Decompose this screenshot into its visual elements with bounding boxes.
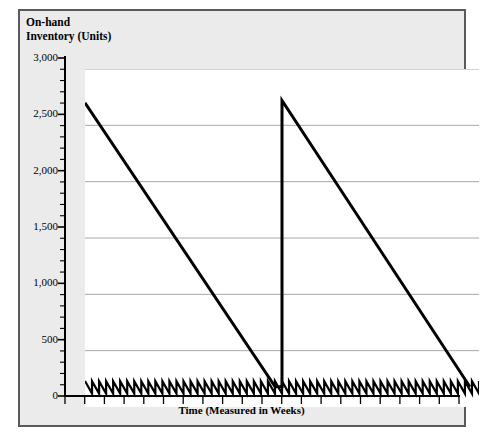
y-axis-tick-labels: 05001,0001,5002,0002,5003,000 xyxy=(10,0,58,441)
y-tick-label: 1,500 xyxy=(14,220,58,232)
plot-svg xyxy=(85,69,479,407)
y-axis-title: On-hand Inventory (Units) xyxy=(26,15,111,43)
plot-area xyxy=(85,69,479,407)
y-tick-label: 500 xyxy=(14,333,58,345)
x-axis-title: Time (Measured in Weeks) xyxy=(0,404,483,416)
chart-figure: 05001,0001,5002,0002,5003,000 On-hand In… xyxy=(0,0,483,441)
y-tick-label: 2,500 xyxy=(14,107,58,119)
y-tick-label: 0 xyxy=(14,389,58,401)
series-large-sawtooth xyxy=(85,101,470,387)
y-tick-label: 3,000 xyxy=(14,51,58,63)
chart-frame xyxy=(18,9,466,427)
series-small-sawtooth xyxy=(85,381,479,393)
y-tick-label: 2,000 xyxy=(14,164,58,176)
y-tick-label: 1,000 xyxy=(14,276,58,288)
series-group xyxy=(85,101,479,394)
